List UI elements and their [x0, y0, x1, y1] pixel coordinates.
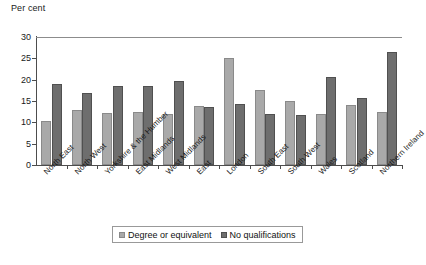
x-axis-tick-mark [372, 165, 373, 169]
x-axis-tick-mark [402, 165, 403, 169]
x-axis-tick-mark [189, 165, 190, 169]
y-axis-tick-label: 5 [9, 139, 31, 149]
x-axis-tick-mark [128, 165, 129, 169]
legend-swatch-icon [221, 232, 227, 238]
y-axis-tick-label: 0 [9, 160, 31, 170]
bar [285, 101, 295, 165]
x-axis-tick-mark [97, 165, 98, 169]
y-axis-tick-mark [32, 122, 36, 123]
legend-label: No qualifications [230, 230, 296, 240]
x-axis-tick-mark [219, 165, 220, 169]
y-axis-tick-mark [32, 58, 36, 59]
y-axis-tick-label: 30 [9, 32, 31, 42]
y-axis-tick-label: 25 [9, 53, 31, 63]
x-axis-tick-mark [311, 165, 312, 169]
y-axis-tick-mark [32, 144, 36, 145]
bar [102, 113, 112, 165]
x-axis-tick-mark [250, 165, 251, 169]
bar [224, 58, 234, 165]
bar [255, 90, 265, 165]
legend-swatch-icon [119, 232, 125, 238]
chart-legend: Degree or equivalentNo qualifications [112, 226, 303, 243]
bar [377, 112, 387, 165]
bar [387, 52, 397, 165]
y-axis-tick-label: 10 [9, 117, 31, 127]
bar [41, 121, 51, 165]
y-axis-tick-labels: 051015202530 [0, 0, 31, 265]
bar [316, 114, 326, 165]
y-axis-line [36, 36, 37, 166]
legend-label: Degree or equivalent [128, 230, 212, 240]
bar [72, 110, 82, 165]
x-axis-tick-mark [280, 165, 281, 169]
x-axis-tick-mark [158, 165, 159, 169]
plot-top-rule [36, 37, 402, 38]
y-axis-tick-mark [32, 165, 36, 166]
bar [346, 105, 356, 165]
bar [326, 77, 336, 165]
y-axis-tick-label: 20 [9, 75, 31, 85]
legend-entry: Degree or equivalent [119, 230, 212, 240]
legend-entry: No qualifications [221, 230, 296, 240]
x-axis-tick-mark [341, 165, 342, 169]
y-axis-tick-label: 15 [9, 96, 31, 106]
x-axis-tick-mark [67, 165, 68, 169]
y-axis-tick-mark [32, 101, 36, 102]
y-axis-tick-mark [32, 80, 36, 81]
